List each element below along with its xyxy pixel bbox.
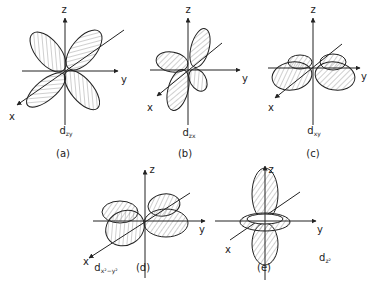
- panel-c-z-label: z: [310, 5, 315, 15]
- lobe: [59, 24, 108, 76]
- panel-b-x-label: x: [147, 103, 153, 113]
- panel-e-orbital-label: dz²: [319, 253, 331, 264]
- panel-e-caption: (e): [257, 263, 271, 273]
- panel-c-x-label: x: [268, 103, 274, 113]
- lobe: [21, 67, 71, 113]
- panel-a-x-label: x: [9, 112, 15, 122]
- lobe: [313, 59, 357, 94]
- panel-a-orbital-label: dzy: [59, 126, 72, 137]
- panel-a-dzy: [17, 18, 124, 125]
- panel-a-y-label: y: [121, 75, 127, 85]
- panel-d-x-label: x: [83, 257, 89, 267]
- lobe: [144, 209, 188, 237]
- panel-b-dzx: [150, 18, 240, 125]
- panel-a-z-label: z: [61, 5, 66, 15]
- panel-b-z-label: z: [185, 5, 190, 15]
- panel-e-y-label: y: [317, 225, 323, 235]
- lobe: [186, 26, 214, 69]
- panel-d-y-label: y: [199, 225, 205, 235]
- panel-c-caption: (c): [306, 149, 319, 159]
- panel-b-orbital-label: dzx: [182, 128, 195, 139]
- panel-c-y-label: y: [361, 72, 367, 82]
- panel-c-orbital-label: dxy: [307, 126, 320, 137]
- panel-e-x-label: x: [225, 245, 231, 255]
- panel-d-orbital-label: dx²−y²: [94, 263, 117, 274]
- panel-a-caption: (a): [56, 149, 70, 159]
- panel-d-caption: (d): [136, 263, 150, 273]
- panel-e-z-label: z: [268, 165, 273, 175]
- panel-c-dxy: [268, 18, 360, 125]
- panel-b-y-label: y: [242, 74, 248, 84]
- panel-d-z-label: z: [149, 165, 154, 175]
- panel-b-caption: (b): [178, 149, 192, 159]
